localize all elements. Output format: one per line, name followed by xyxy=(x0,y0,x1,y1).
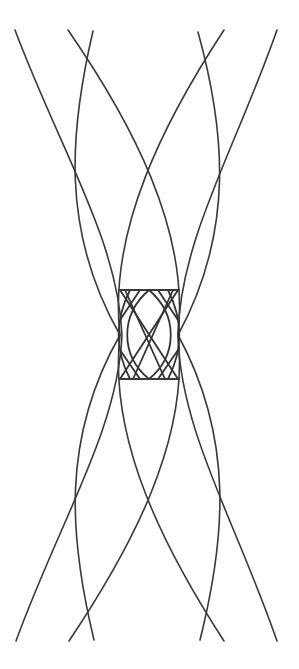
curve-c2 xyxy=(68,30,180,641)
curve-c6 xyxy=(178,30,277,641)
center-lattice xyxy=(119,290,180,379)
curve-diagram xyxy=(0,0,299,669)
curve-c3 xyxy=(75,31,120,640)
curve-c1 xyxy=(15,30,122,641)
curve-c4 xyxy=(178,32,220,640)
